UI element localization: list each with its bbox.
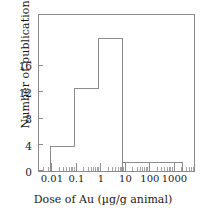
plot-area <box>38 14 195 172</box>
x-axis-title: Dose of Au (µg/g animal) <box>0 193 206 206</box>
x-axis-title-unit: µg/g animal <box>102 193 168 206</box>
chart-figure: Number of publications 16 12 8 4 0 <box>0 0 206 212</box>
y-tick-label-12: 12 <box>6 88 32 99</box>
y-tick-label-0: 0 <box>6 167 32 178</box>
x-tick-label-100: 100 <box>140 174 159 184</box>
x-tick-label-0p01: 0.01 <box>41 174 63 184</box>
y-tick-label-8: 8 <box>6 114 32 125</box>
x-tick-label-1: 1 <box>98 174 104 184</box>
x-tick-label-0p1: 0.1 <box>68 174 84 184</box>
x-tick-label-1000: 1000 <box>162 174 187 184</box>
x-axis-title-suffix: ) <box>168 193 172 206</box>
y-tick-label-16: 16 <box>6 61 32 72</box>
x-tick-label-10: 10 <box>119 174 132 184</box>
x-axis-title-prefix: Dose of Au ( <box>34 193 102 206</box>
y-tick-label-4: 4 <box>6 141 32 152</box>
